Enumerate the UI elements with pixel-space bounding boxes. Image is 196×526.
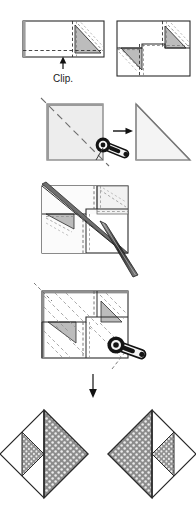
step-1a-clipped-strip-front [23, 21, 104, 57]
step-4-square-with-dashed-fan [34, 283, 128, 369]
origami-instruction-diagram: Clip. [0, 0, 196, 526]
clip-label: Clip. [53, 73, 73, 84]
diagram-sheet: Clip. [0, 0, 196, 526]
step-1b-clipped-strip-both-ends [117, 21, 190, 76]
